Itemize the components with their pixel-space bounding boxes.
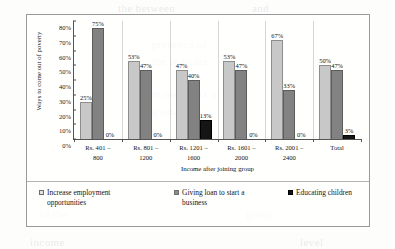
legend-separator [27,181,369,182]
bar-slot: 3% [343,21,355,139]
y-axis-tick-label: 80% [43,24,71,31]
bar-value-label: 75% [92,20,104,27]
y-axis-tick-labels: 80%70%60%50%40%30%20%10%0% [43,21,71,139]
group-divider [313,21,314,139]
bar-value-label: 50% [319,57,331,64]
bar[interactable] [343,135,355,139]
x-axis-tick-label-line: Total [313,143,361,153]
bar-group: 25%75%0% [74,21,122,139]
bar-slot: 47% [140,21,152,139]
bar-value-label: 53% [128,53,140,60]
bar-value-label: 67% [271,32,283,39]
plot-region: Ways to come out of poverty 80%70%60%50%… [27,15,371,175]
group-divider [218,21,219,139]
bar-value-label: 53% [224,53,236,60]
bar[interactable] [331,70,343,139]
group-divider [122,21,123,139]
bar[interactable] [200,120,212,139]
legend-label-line: business [182,198,244,208]
bars-plot-area: 25%75%0%53%47%0%47%40%13%53%47%0%67%33%0… [74,21,361,139]
bar-slot: 50% [319,21,331,139]
bar-group: 67%33%0% [265,21,313,139]
bar[interactable] [176,70,188,139]
bar-group: 53%47%0% [217,21,265,139]
bar-value-label: 13% [200,112,212,119]
bar-slot: 0% [152,21,164,139]
x-axis-tick-label: Rs. 2001 –2400 [265,143,313,162]
legend-item[interactable]: Increase employmentopportunities [27,188,174,207]
x-axis-tick-mark [361,139,362,142]
bar[interactable] [188,80,200,139]
bar[interactable] [319,65,331,139]
bar-slot: 0% [104,21,116,139]
y-axis-tick-mark [73,109,76,110]
bar-slot: 13% [200,21,212,139]
y-axis-tick-label: 20% [43,112,71,119]
y-axis-tick-label: 70% [43,38,71,45]
group-divider [170,21,171,139]
x-axis-tick-label-line: 2400 [265,153,313,163]
legend-label-line: Giving loan to start a [182,188,244,198]
bar[interactable] [235,70,247,139]
bar-value-label: 0% [297,131,306,138]
bar-slot: 25% [80,21,92,139]
legend-label: Increase employmentopportunities [47,188,110,207]
legend-label-line: opportunities [47,198,110,208]
bar-value-label: 47% [176,62,188,69]
y-axis-tick-label: 10% [43,127,71,134]
group-divider [265,21,266,139]
bar[interactable] [128,61,140,139]
x-axis-tick-label: Total [313,143,361,162]
bar[interactable] [271,40,283,139]
bar-value-label: 0% [153,131,162,138]
bar-group: 53%47%0% [122,21,170,139]
x-axis-tick-label-line: 800 [74,153,122,163]
bar-slot: 53% [128,21,140,139]
y-axis-tick-label: 40% [43,83,71,90]
legend-label-line: Increase employment [47,188,110,198]
y-axis-tick-mark [73,65,76,66]
bar[interactable] [80,102,92,139]
bar-slot: 47% [331,21,343,139]
x-axis-tick-mark [313,139,314,142]
bar-group: 47%40%13% [170,21,218,139]
legend-label-line: Educating children [296,188,352,198]
legend-item[interactable]: Educating children [288,188,371,207]
bar-slot: 47% [176,21,188,139]
bar-value-label: 0% [249,131,258,138]
y-axis-tick-label: 0% [43,142,71,149]
x-axis-tick-mark [122,139,123,142]
bar-value-label: 0% [106,131,115,138]
bar-slot: 67% [271,21,283,139]
bar[interactable] [283,90,295,139]
x-axis-tick-label: Rs. 1601 –2000 [217,143,265,162]
bar[interactable] [92,28,104,139]
legend-swatch-icon [174,190,179,195]
legend-item[interactable]: Giving loan to start abusiness [174,188,288,207]
x-axis-tick-label-line: Rs. 1201 – [170,143,218,153]
bar-slot: 0% [295,21,307,139]
legend-label: Giving loan to start abusiness [182,188,244,207]
y-axis-tick-mark [73,50,76,51]
bar-value-label: 47% [236,62,248,69]
x-axis-tick-label-line: Rs. 801 – [122,143,170,153]
x-axis-tick-label-line: 1600 [170,153,218,163]
x-axis-tick-labels: Rs. 401 –800Rs. 801 –1200Rs. 1201 –1600R… [74,143,361,162]
bar-slot: 47% [235,21,247,139]
x-axis-tick-label: Rs. 1201 –1600 [170,143,218,162]
scanned-page: the between and presence of the indicate… [0,0,395,249]
x-axis-tick-mark [265,139,266,142]
bleed-through-text: the between [118,2,175,14]
legend-label: Educating children [296,188,352,198]
bar[interactable] [223,61,235,139]
x-axis-tick-label-line: 1200 [122,153,170,163]
bar[interactable] [140,70,152,139]
x-axis-tick-mark [218,139,219,142]
chart-legend: Increase employmentopportunitiesGiving l… [27,188,371,207]
x-axis-tick-label-line: Rs. 2001 – [265,143,313,153]
legend-swatch-icon [39,190,44,195]
y-axis-tick-mark [73,94,76,95]
x-axis-tick-mark [74,139,75,142]
x-axis-tick-mark [170,139,171,142]
bar-value-label: 47% [331,62,343,69]
